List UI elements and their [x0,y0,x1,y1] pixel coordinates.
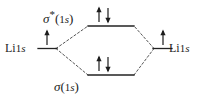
atomic-orbital-label-right: Li1s [169,42,189,54]
electron-arrow-antibonding-down [105,8,110,24]
molecular-orbital-diagram: σ*(1s) σ(1s) Li1s Li1s [0,0,206,99]
electron-arrow-atomic-right-up [160,29,165,45]
antibonding-orbital-label: σ*(1s) [43,9,73,25]
correlation-line-right-bonding [134,49,154,76]
bonding-orbital-label: σ(1s) [54,80,79,93]
correlation-line-right-antibonding [134,26,154,49]
atomic-right-element: Li [169,41,180,55]
atomic-right-orbital-letter: s [185,42,189,54]
correlation-line-left-antibonding [56,26,88,49]
electron-arrow-bonding-down [105,57,110,73]
correlation-line-left-bonding [56,49,88,76]
electron-arrow-bonding-up [96,55,101,71]
electron-arrow-antibonding-up [96,6,101,22]
bonding-close-paren: ) [75,79,79,94]
antibonding-close-paren: ) [69,11,73,26]
atomic-orbital-label-left: Li1s [5,42,25,54]
electron-arrow-atomic-left-up [44,29,49,45]
atomic-left-element: Li [5,41,16,55]
atomic-left-orbital-letter: s [21,42,25,54]
